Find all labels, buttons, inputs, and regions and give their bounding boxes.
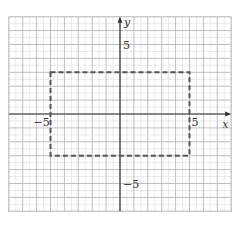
x-axis-label: x [222,118,229,131]
y-axis-label: y [123,16,131,29]
x-tick-label-pos5: 5 [192,116,199,129]
y-tick-label-pos5: 5 [123,39,130,52]
x-axis-arrow-icon [225,112,231,117]
y-axis-arrow-icon [118,17,123,23]
y-tick-label-neg5: −5 [123,178,139,191]
x-tick-label-neg5: −5 [34,116,50,129]
coordinate-plane: −5 5 5 −5 x y [0,0,241,227]
